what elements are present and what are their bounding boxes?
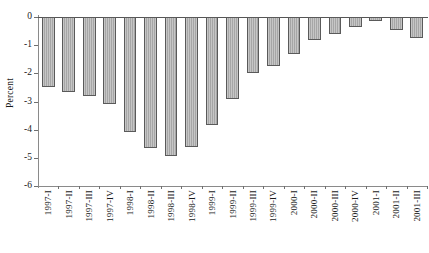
bar <box>369 17 382 21</box>
y-axis-tick: -6 <box>0 186 38 187</box>
x-axis-tick-mark <box>161 186 162 189</box>
x-axis-label: 1999-III <box>248 190 258 250</box>
bar <box>410 17 423 38</box>
x-axis-tick-mark <box>304 186 305 189</box>
x-axis-label-text: 1998-II <box>146 190 156 218</box>
bar-slot <box>410 17 423 186</box>
x-axis-label: 1998-III <box>166 190 176 250</box>
x-axis-label: 2000-II <box>309 190 319 250</box>
bar-slot <box>103 17 116 186</box>
bar-slot <box>369 17 382 186</box>
y-axis-tick: -2 <box>0 73 38 74</box>
bar-slot <box>206 17 219 186</box>
y-axis-tick-label: 0 <box>27 10 32 23</box>
x-axis-label-text: 1999-I <box>207 190 217 215</box>
x-axis-tick-mark <box>263 186 264 189</box>
bar-slot <box>288 17 301 186</box>
x-axis-label-text: 2001-I <box>371 190 381 215</box>
y-axis-tick: 0 <box>0 17 38 18</box>
bar <box>206 17 219 125</box>
y-axis-tick: -5 <box>0 158 38 159</box>
x-axis-label: 1997-I <box>43 190 53 250</box>
x-axis-label-text: 1997-I <box>43 190 53 215</box>
x-axis-tick-mark <box>181 186 182 189</box>
x-axis-label: 1998-I <box>125 190 135 250</box>
bar-slot <box>42 17 55 186</box>
x-axis-line <box>38 186 428 187</box>
y-axis-title-text: Percent <box>5 78 15 108</box>
x-axis-tick-mark <box>325 186 326 189</box>
bar-slot <box>124 17 137 186</box>
bar-slot <box>226 17 239 186</box>
y-axis-tick-label: -4 <box>24 123 32 136</box>
bar-slot <box>349 17 362 186</box>
bar <box>349 17 362 27</box>
x-axis-tick-mark <box>284 186 285 189</box>
bar-slot <box>144 17 157 186</box>
plot-area <box>38 17 427 186</box>
bar-slot <box>185 17 198 186</box>
x-axis-tick-mark <box>407 186 408 189</box>
bar <box>165 17 178 156</box>
x-axis-label: 1998-IV <box>187 190 197 250</box>
bar <box>308 17 321 40</box>
y-axis-tick-label: -2 <box>24 66 32 79</box>
x-axis-tick-mark <box>243 186 244 189</box>
x-axis-label-text: 2000-III <box>330 190 340 222</box>
x-axis-label: 1999-IV <box>268 190 278 250</box>
x-axis-tick-mark <box>345 186 346 189</box>
x-axis-tick-mark <box>427 186 428 189</box>
x-axis-label-text: 1999-III <box>248 190 258 222</box>
x-axis-label-text: 2001-II <box>391 190 401 218</box>
x-axis-tick-mark <box>366 186 367 189</box>
bar <box>42 17 55 87</box>
bar <box>226 17 239 99</box>
x-axis-label: 2001-I <box>371 190 381 250</box>
y-axis-tick-label: -6 <box>24 179 32 192</box>
x-axis-label-text: 2001-III <box>412 190 422 222</box>
x-axis-label-text: 2000-I <box>289 190 299 215</box>
x-axis-label-text: 1998-III <box>166 190 176 222</box>
bar <box>288 17 301 54</box>
x-axis-label-text: 2000-II <box>309 190 319 218</box>
bar-slot <box>308 17 321 186</box>
x-axis-label: 2000-III <box>330 190 340 250</box>
y-axis-tick: -4 <box>0 130 38 131</box>
x-axis-label-text: 1998-I <box>125 190 135 215</box>
y-axis-tick: -3 <box>0 102 38 103</box>
bar <box>329 17 342 34</box>
x-axis-labels: 1997-I1997-II1997-III1997-IV1998-I1998-I… <box>38 190 427 252</box>
x-axis-label: 1997-II <box>64 190 74 250</box>
x-axis-label: 1998-II <box>146 190 156 250</box>
bar <box>144 17 157 148</box>
x-axis-label: 1997-IV <box>105 190 115 250</box>
x-axis-label-text: 2000-IV <box>350 190 360 222</box>
x-axis-label: 2001-II <box>391 190 401 250</box>
x-axis-label-text: 1999-IV <box>268 190 278 222</box>
bar-slot <box>247 17 260 186</box>
x-axis-label: 2000-IV <box>350 190 360 250</box>
x-axis-label-text: 1997-III <box>84 190 94 222</box>
bar <box>247 17 260 73</box>
bar-chart: Percent 0-1-2-3-4-5-6 1997-I1997-II1997-… <box>0 0 429 253</box>
bar <box>185 17 198 147</box>
bar <box>124 17 137 132</box>
y-axis-tick: -1 <box>0 45 38 46</box>
x-axis-label-text: 1997-IV <box>105 190 115 222</box>
bar-slot <box>62 17 75 186</box>
x-axis-label: 1999-II <box>228 190 238 250</box>
bar-slot <box>329 17 342 186</box>
bar-slot <box>267 17 280 186</box>
y-axis-tick-label: -3 <box>24 95 32 108</box>
x-axis-tick-mark <box>222 186 223 189</box>
bar <box>267 17 280 66</box>
x-axis-tick-mark <box>58 186 59 189</box>
x-axis-label-text: 1999-II <box>228 190 238 218</box>
x-axis-tick-mark <box>79 186 80 189</box>
x-axis-label: 1999-I <box>207 190 217 250</box>
x-axis-tick-mark <box>386 186 387 189</box>
bar-slot <box>390 17 403 186</box>
y-axis-tick-label: -5 <box>24 151 32 164</box>
bar <box>390 17 403 30</box>
x-axis-label-text: 1998-IV <box>187 190 197 222</box>
